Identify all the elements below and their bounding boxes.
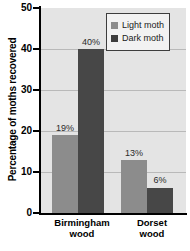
bar-birmingham-dark-moth [78,49,104,213]
y-tick-label-20: 20 [6,126,32,136]
legend-item-dark-moth: Dark moth [111,33,164,43]
x-category-dorset-line2: wood [121,228,183,239]
bar-label-birmingham-light: 19% [49,123,81,133]
gridline-30 [41,90,186,91]
bar-label-dorset-dark: 6% [146,175,174,185]
y-tick-label-50: 50 [6,3,32,13]
y-tick-label-0: 0 [6,208,32,218]
bar-label-birmingham-dark: 40% [75,37,107,47]
x-category-birmingham-line2: wood [44,228,120,239]
y-tick-label-40: 40 [6,44,32,54]
legend-label-light-moth: Light moth [122,20,164,30]
legend-item-light-moth: Light moth [111,20,164,30]
bar-label-dorset-light: 13% [118,148,150,158]
y-tick-30 [33,89,40,91]
legend: Light moth Dark moth [106,13,170,51]
y-tick-0 [33,212,40,214]
y-tick-20 [33,130,40,132]
bar-birmingham-light-moth [52,135,78,213]
x-category-dorset-line1: Dorset [121,217,183,228]
x-category-birmingham: Birmingham wood [44,217,120,239]
y-tick-label-10: 10 [6,167,32,177]
x-category-birmingham-line1: Birmingham [44,217,120,228]
legend-swatch-dark-moth-icon [111,35,118,42]
bar-dorset-dark-moth [147,188,173,213]
y-tick-40 [33,48,40,50]
legend-swatch-light-moth-icon [111,22,118,29]
legend-label-dark-moth: Dark moth [122,33,164,43]
x-axis-line [39,213,187,215]
y-tick-10 [33,171,40,173]
bar-chart: Percentage of moths recovered 19% 40% 13… [0,0,190,251]
x-category-dorset: Dorset wood [121,217,183,239]
y-tick-50 [33,7,40,9]
y-axis-line [39,6,41,215]
bar-dorset-light-moth [121,160,147,213]
y-tick-label-30: 30 [6,85,32,95]
